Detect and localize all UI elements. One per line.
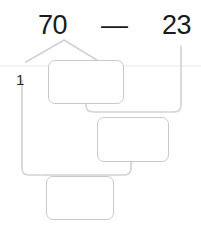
caret-connector-minuend xyxy=(26,40,100,62)
answer-box-3[interactable] xyxy=(46,176,114,220)
regroup-carry-label: 1 xyxy=(16,72,24,87)
wire-carry-to-box3 xyxy=(22,80,47,175)
worksheet-canvas: 70 — 23 1 xyxy=(0,0,201,228)
subtrahend-value: 23 xyxy=(162,12,191,39)
wire-box2-to-box3 xyxy=(47,161,131,175)
minuend-value: 70 xyxy=(38,12,67,39)
wire-box1-to-box2 xyxy=(86,103,98,112)
answer-box-2[interactable] xyxy=(97,117,169,162)
minus-operator: — xyxy=(101,12,128,39)
answer-box-1[interactable] xyxy=(48,60,124,104)
